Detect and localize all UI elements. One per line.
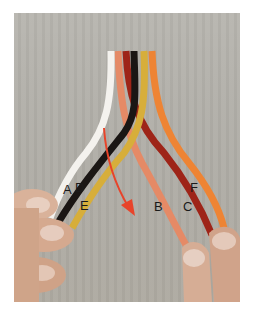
label-a: A [63,183,72,196]
label-c: C [183,200,192,213]
label-e: E [80,199,89,212]
label-f: F [190,181,198,194]
braid-illustration [14,13,240,302]
label-b: B [154,200,163,213]
braiding-photo: A D E B C F [14,13,240,302]
label-d: D [75,181,84,194]
